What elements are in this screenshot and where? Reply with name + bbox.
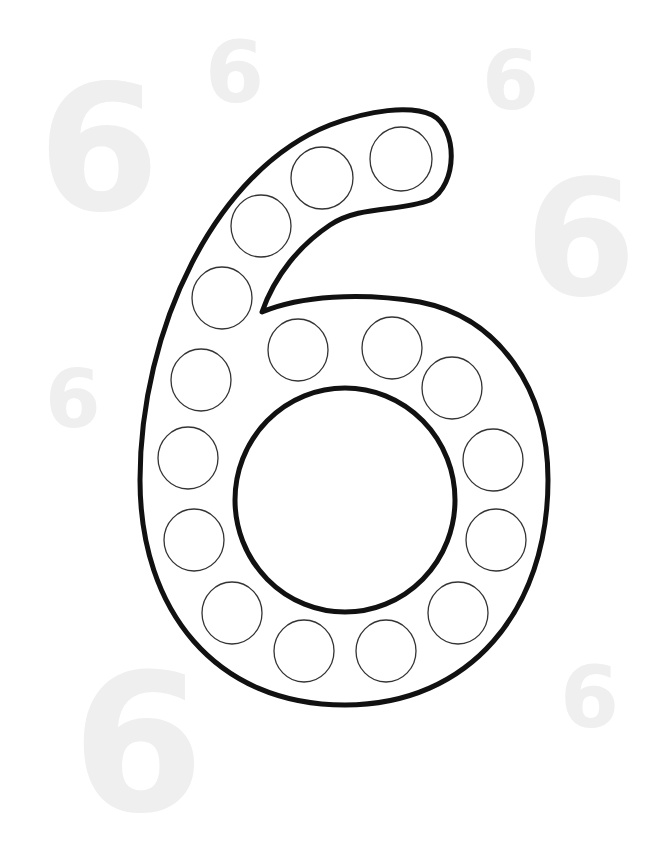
numeral-six-outline <box>0 0 664 847</box>
dot-circle-9[interactable] <box>274 620 334 682</box>
dot-circle-8[interactable] <box>202 582 262 644</box>
dot-circle-15[interactable] <box>362 317 422 379</box>
dot-circle-12[interactable] <box>466 509 526 571</box>
dot-circle-1[interactable] <box>370 127 432 191</box>
dot-circle-4[interactable] <box>192 267 252 329</box>
dot-circle-7[interactable] <box>164 509 224 571</box>
dot-circle-11[interactable] <box>428 582 488 644</box>
dot-circle-13[interactable] <box>463 429 523 491</box>
six-inner-counter <box>235 388 455 612</box>
dot-circle-6[interactable] <box>158 427 218 489</box>
dot-circle-5[interactable] <box>171 349 231 411</box>
dot-circle-3[interactable] <box>231 195 291 257</box>
dot-circle-16[interactable] <box>268 319 328 381</box>
dot-circle-2[interactable] <box>291 147 353 209</box>
dot-circle-14[interactable] <box>422 357 482 419</box>
dot-circle-10[interactable] <box>356 620 416 682</box>
